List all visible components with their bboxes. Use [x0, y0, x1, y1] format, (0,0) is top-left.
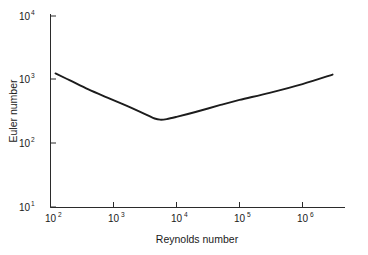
- x-tick-label-4-exp: 5: [247, 211, 251, 218]
- y-tick-label-3-exp: 3: [31, 72, 35, 79]
- x-tick-label-1-exp: 2: [58, 211, 62, 218]
- x-tick-label-3-exp: 4: [184, 211, 188, 218]
- x-tick-label-2-base: 10: [108, 213, 120, 224]
- x-axis-title: Reynolds number: [156, 233, 239, 245]
- x-tick-label-2-exp: 3: [121, 211, 125, 218]
- x-tick-marks: [51, 202, 303, 208]
- figure-container: 10 4 10 3 10 2 10 1 10 2 10 3 10 4 10 5 …: [0, 0, 368, 255]
- y-tick-labels: 10 4 10 3 10 2 10 1: [19, 9, 35, 213]
- y-tick-marks: [51, 16, 57, 207]
- x-tick-labels: 10 2 10 3 10 4 10 5 10 6: [45, 211, 314, 224]
- y-tick-label-4-exp: 4: [31, 9, 35, 16]
- y-tick-label-3-base: 10: [19, 74, 31, 85]
- y-tick-label-2-base: 10: [19, 138, 31, 149]
- x-tick-label-1-base: 10: [45, 213, 57, 224]
- y-tick-label-1-base: 10: [19, 202, 31, 213]
- x-tick-label-5-base: 10: [297, 213, 309, 224]
- y-axis-title: Euler number: [7, 79, 19, 143]
- y-tick-label-1-exp: 1: [31, 200, 35, 207]
- euler-number-curve: [55, 73, 332, 119]
- log-log-chart: 10 4 10 3 10 2 10 1 10 2 10 3 10 4 10 5 …: [0, 0, 368, 255]
- y-tick-label-4-base: 10: [19, 11, 31, 22]
- x-tick-label-3-base: 10: [171, 213, 183, 224]
- x-tick-label-4-base: 10: [234, 213, 246, 224]
- y-tick-label-2-exp: 2: [31, 136, 35, 143]
- x-tick-label-5-exp: 6: [310, 211, 314, 218]
